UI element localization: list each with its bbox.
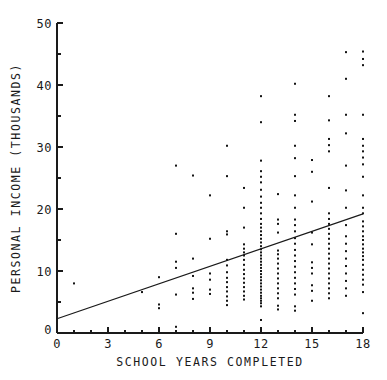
data-point: [260, 286, 262, 288]
tick-labels: 036912151801020304050: [37, 17, 371, 352]
data-point: [226, 271, 228, 273]
data-point: [294, 310, 296, 312]
data-point: [362, 58, 364, 60]
data-point: [294, 83, 296, 85]
data-point: [260, 170, 262, 172]
data-point: [243, 264, 245, 266]
x-tick-label: 6: [155, 337, 163, 351]
data-point: [362, 225, 364, 227]
data-point: [260, 230, 262, 232]
data-point: [328, 253, 330, 255]
data-point: [345, 265, 347, 267]
data-point: [294, 277, 296, 279]
data-point: [362, 114, 364, 116]
data-point: [328, 150, 330, 152]
data-point: [362, 274, 364, 276]
data-point: [328, 272, 330, 274]
data-point: [311, 290, 313, 292]
axis-titles: SCHOOL YEARS COMPLETEDPERSONAL INCOME (T…: [9, 63, 304, 369]
y-tick-label: 20: [37, 203, 52, 217]
data-point: [328, 287, 330, 289]
data-point: [260, 227, 262, 229]
axes: [57, 23, 363, 333]
data-point: [362, 150, 364, 152]
data-point: [158, 303, 160, 305]
data-point: [277, 297, 279, 299]
data-point: [260, 297, 262, 299]
data-point: [328, 119, 330, 121]
data-point: [209, 293, 211, 295]
data-points: [73, 51, 364, 332]
data-point: [226, 281, 228, 283]
data-point: [328, 223, 330, 225]
data-point: [260, 207, 262, 209]
y-tick-label: 40: [37, 79, 52, 93]
data-point: [277, 232, 279, 234]
data-point: [362, 243, 364, 245]
data-point: [260, 202, 262, 204]
data-point: [294, 266, 296, 268]
data-point: [328, 248, 330, 250]
data-point: [260, 176, 262, 178]
data-point: [328, 277, 330, 279]
data-point: [175, 267, 177, 269]
data-point: [362, 51, 364, 53]
data-point: [294, 175, 296, 177]
data-point: [260, 282, 262, 284]
data-point: [192, 275, 194, 277]
data-point: [260, 279, 262, 281]
data-point: [362, 145, 364, 147]
data-point: [277, 258, 279, 260]
tick-marks: [57, 23, 363, 333]
data-point: [311, 171, 313, 173]
data-point: [243, 282, 245, 284]
data-point: [226, 175, 228, 177]
data-point: [345, 114, 347, 116]
data-point: [260, 251, 262, 253]
data-point: [243, 299, 245, 301]
x-axis-title: SCHOOL YEARS COMPLETED: [116, 355, 304, 369]
data-point: [226, 304, 228, 306]
data-point: [311, 243, 313, 245]
data-point: [328, 282, 330, 284]
data-point: [260, 289, 262, 291]
data-point: [362, 230, 364, 232]
data-point: [175, 294, 177, 296]
data-point: [260, 302, 262, 304]
data-point: [277, 277, 279, 279]
data-point: [277, 287, 279, 289]
data-point: [243, 269, 245, 271]
data-point: [362, 64, 364, 66]
data-point: [260, 196, 262, 198]
data-point: [345, 295, 347, 297]
data-point: [311, 272, 313, 274]
x-tick-label: 3: [104, 337, 112, 351]
data-point: [277, 305, 279, 307]
data-point: [260, 189, 262, 191]
data-point: [328, 268, 330, 270]
data-point: [362, 269, 364, 271]
data-point: [141, 291, 143, 293]
x-tick-label: 9: [206, 337, 214, 351]
data-point: [311, 261, 313, 263]
data-point: [311, 159, 313, 161]
data-point: [260, 181, 262, 183]
data-point: [345, 250, 347, 252]
y-axis-title: PERSONAL INCOME (THOUSANDS): [9, 63, 23, 293]
data-point: [243, 295, 245, 297]
data-point: [294, 305, 296, 307]
data-point: [192, 292, 194, 294]
data-point: [362, 291, 364, 293]
data-point: [226, 290, 228, 292]
data-point: [345, 272, 347, 274]
data-point: [175, 261, 177, 263]
data-point: [294, 145, 296, 147]
data-point: [243, 286, 245, 288]
data-point: [362, 157, 364, 159]
data-point: [209, 194, 211, 196]
data-point: [260, 212, 262, 214]
data-point: [158, 276, 160, 278]
data-point: [328, 212, 330, 214]
data-point: [260, 292, 262, 294]
data-point: [362, 138, 364, 140]
